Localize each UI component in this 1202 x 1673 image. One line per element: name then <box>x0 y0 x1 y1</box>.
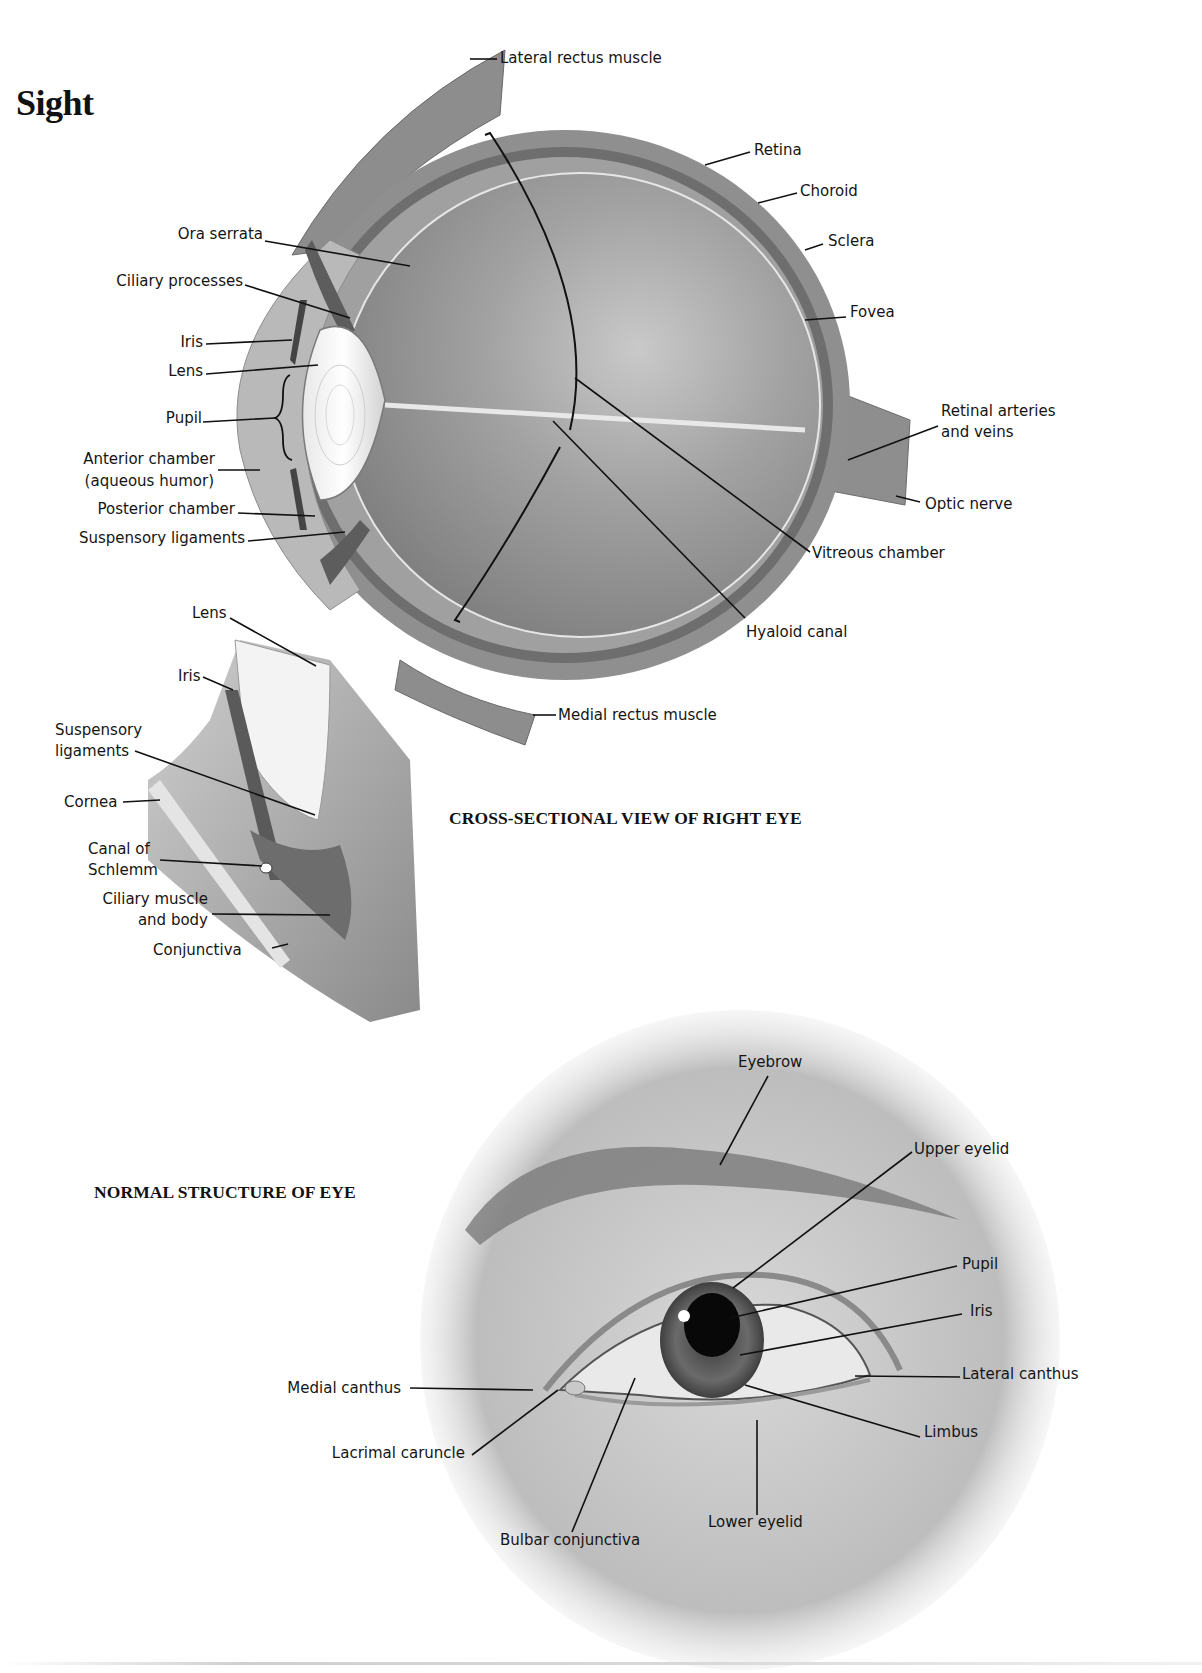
label-inset-cornea: Cornea <box>64 792 117 813</box>
label-medial-rectus-muscle: Medial rectus muscle <box>558 705 717 726</box>
label-vitreous-chamber: Vitreous chamber <box>812 543 945 564</box>
label-eyebrow: Eyebrow <box>738 1052 802 1073</box>
label-inset-canal-of-schlemm: Canal of <box>88 839 150 860</box>
label-choroid: Choroid <box>800 181 858 202</box>
label-pupil-external: Pupil <box>962 1254 998 1275</box>
label-anterior-chamber: Anterior chamber <box>83 449 215 470</box>
eye-diagrams-artwork <box>0 0 1202 1673</box>
label-inset-lens: Lens <box>192 603 227 624</box>
label-inset-suspensory-line2: ligaments <box>55 741 129 762</box>
label-bulbar-conjunctiva: Bulbar conjunctiva <box>500 1530 640 1551</box>
label-limbus: Limbus <box>924 1422 978 1443</box>
label-inset-ciliary-muscle-line2: and body <box>138 910 208 931</box>
label-sclera: Sclera <box>828 231 875 252</box>
external-eye-artwork <box>420 1010 1060 1670</box>
label-inset-canal-of-schlemm-line2: Schlemm <box>88 860 158 881</box>
label-suspensory-ligaments: Suspensory ligaments <box>79 528 245 549</box>
label-fovea: Fovea <box>850 302 895 323</box>
label-anterior-chamber-line2: (aqueous humor) <box>85 471 214 492</box>
label-optic-nerve: Optic nerve <box>925 494 1012 515</box>
label-lower-eyelid: Lower eyelid <box>708 1512 803 1533</box>
label-iris: Iris <box>180 332 203 353</box>
label-lacrimal-caruncle: Lacrimal caruncle <box>332 1443 465 1464</box>
external-view-caption: NORMAL STRUCTURE OF EYE <box>94 1182 356 1203</box>
detail-inset-artwork <box>148 640 420 1022</box>
cross-section-caption: CROSS-SECTIONAL VIEW OF RIGHT EYE <box>449 808 802 829</box>
label-iris-external: Iris <box>970 1301 993 1322</box>
label-pupil: Pupil <box>166 408 202 429</box>
label-ora-serrata: Ora serrata <box>178 224 263 245</box>
label-inset-suspensory: Suspensory <box>55 720 142 741</box>
page-bottom-edge <box>0 1662 1202 1665</box>
label-lateral-rectus-muscle: Lateral rectus muscle <box>500 48 662 69</box>
label-retinal-arteries: Retinal arteries <box>941 401 1056 422</box>
label-inset-conjunctiva: Conjunctiva <box>153 940 242 961</box>
label-lateral-canthus: Lateral canthus <box>962 1364 1079 1385</box>
label-upper-eyelid: Upper eyelid <box>914 1139 1009 1160</box>
label-inset-ciliary-muscle: Ciliary muscle <box>102 889 208 910</box>
label-inset-iris: Iris <box>178 666 201 687</box>
label-ciliary-processes: Ciliary processes <box>116 271 243 292</box>
label-posterior-chamber: Posterior chamber <box>97 499 235 520</box>
label-medial-canthus: Medial canthus <box>287 1378 401 1399</box>
label-hyaloid-canal: Hyaloid canal <box>746 622 847 643</box>
label-lens: Lens <box>168 361 203 382</box>
label-retina: Retina <box>754 140 802 161</box>
label-retinal-arteries-line2: and veins <box>941 422 1014 443</box>
